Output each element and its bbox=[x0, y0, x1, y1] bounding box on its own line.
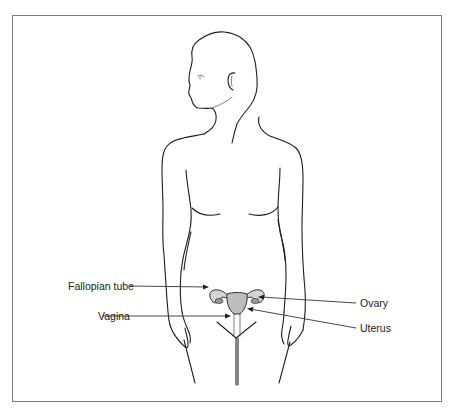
body-diagram bbox=[0, 0, 455, 416]
vagina bbox=[234, 314, 240, 336]
ovary-right bbox=[251, 299, 259, 304]
legs bbox=[217, 322, 256, 385]
reproductive-organs bbox=[210, 290, 265, 336]
label-ovary: Ovary bbox=[360, 297, 388, 309]
uterus bbox=[227, 293, 247, 315]
head bbox=[189, 32, 258, 143]
ovary-left bbox=[215, 299, 223, 304]
label-vagina: Vagina bbox=[98, 310, 130, 322]
label-uterus: Uterus bbox=[360, 322, 391, 334]
label-fallopian-tube: Fallopian tube bbox=[68, 280, 134, 292]
